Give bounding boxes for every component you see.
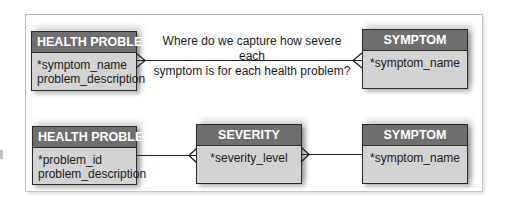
attribute-severity-level: *severity_level bbox=[197, 151, 301, 165]
entity-attributes: *symptom_name bbox=[363, 51, 467, 70]
attribute-symptom-name: *symptom_name bbox=[363, 151, 467, 165]
crows-foot-many-icon bbox=[300, 146, 311, 163]
entity-health-problem-top[interactable]: HEALTH PROBLEM *symptom_name problem_des… bbox=[31, 31, 137, 91]
attribute-problem-id: *problem_id bbox=[38, 153, 136, 167]
entity-symptom-top[interactable]: SYMPTOM *symptom_name bbox=[362, 29, 468, 89]
question-line-2: symptom is for each health problem? bbox=[152, 64, 352, 79]
entity-symptom-bottom[interactable]: SYMPTOM *symptom_name bbox=[362, 124, 468, 184]
entity-title: HEALTH PROBLEM bbox=[32, 32, 136, 53]
attribute-symptom-name: *symptom_name bbox=[363, 56, 467, 70]
entity-title: SEVERITY bbox=[197, 125, 301, 146]
entity-severity[interactable]: SEVERITY *severity_level bbox=[196, 124, 302, 184]
question-text: Where do we capture how severe each symp… bbox=[152, 34, 352, 79]
entity-attributes: *severity_level bbox=[197, 146, 301, 165]
entity-health-problem-bottom[interactable]: HEALTH PROBLEM *problem_id problem_descr… bbox=[32, 126, 137, 185]
entity-title: SYMPTOM bbox=[363, 125, 467, 146]
crows-foot-many-icon bbox=[136, 52, 148, 69]
entity-attributes: *symptom_name bbox=[363, 146, 467, 165]
edge-artifact bbox=[0, 150, 3, 159]
attribute-problem-description: problem_description bbox=[37, 72, 136, 86]
attribute-problem-description: problem_description bbox=[38, 167, 136, 181]
entity-attributes: *problem_id problem_description bbox=[33, 148, 136, 181]
entity-attributes: *symptom_name problem_description bbox=[32, 53, 136, 86]
relationship-line-top bbox=[137, 60, 362, 61]
entity-title: SYMPTOM bbox=[363, 30, 467, 51]
entity-title: HEALTH PROBLEM bbox=[33, 127, 136, 148]
attribute-symptom-name: *symptom_name bbox=[37, 58, 136, 72]
